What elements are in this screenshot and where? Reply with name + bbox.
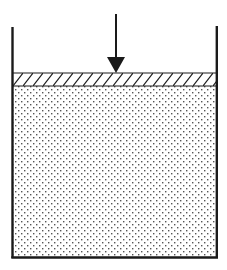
granular-medium bbox=[13, 86, 217, 257]
load-arrow-icon bbox=[107, 14, 125, 73]
compression-diagram bbox=[0, 0, 227, 270]
piston-layer bbox=[13, 73, 217, 86]
